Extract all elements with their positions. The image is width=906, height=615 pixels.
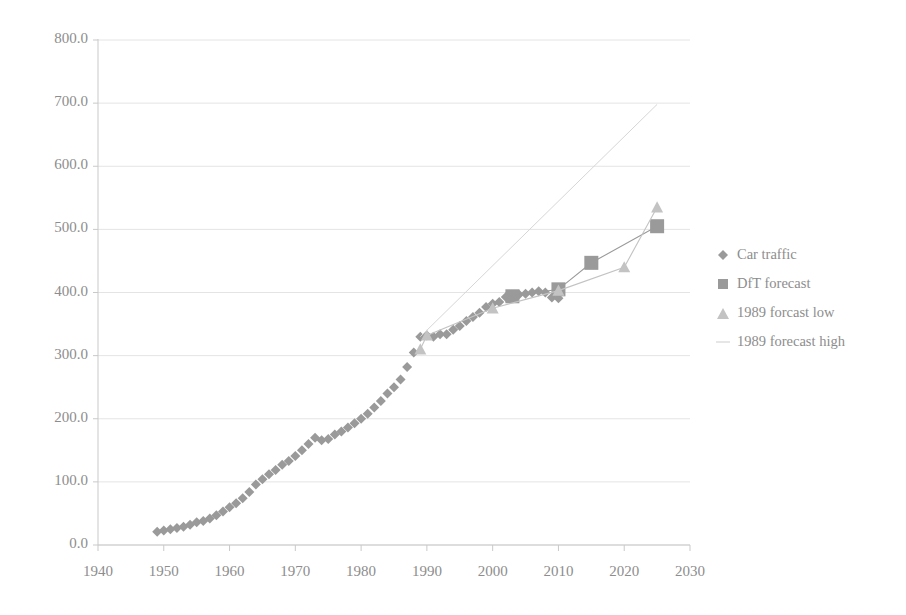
marker-diamond [376, 396, 386, 406]
gridlines [98, 40, 690, 545]
marker-triangle [717, 308, 729, 319]
y-axis-tick-label: 700.0 [8, 93, 88, 110]
data-series-layer [152, 104, 664, 536]
marker-diamond [718, 250, 728, 260]
y-axis-tick-label: 500.0 [8, 219, 88, 236]
legend-item[interactable]: DfT forecast [716, 269, 896, 298]
legend-item-label: Car traffic [737, 246, 797, 263]
legend-diamond-icon [716, 248, 730, 262]
y-axis-tick-label: 400.0 [8, 283, 88, 300]
legend-item-label: 1989 forecast high [737, 333, 845, 350]
y-axis-tick-label: 0.0 [8, 535, 88, 552]
legend-item-label: 1989 forcast low [737, 304, 834, 321]
marker-diamond [303, 439, 313, 449]
marker-diamond [297, 445, 307, 455]
series-1989-forecast-high [420, 104, 657, 336]
series-car-traffic [152, 286, 563, 537]
y-axis-tick-label: 600.0 [8, 156, 88, 173]
y-axis-tick-label: 800.0 [8, 30, 88, 47]
y-axis-tick-label: 200.0 [8, 409, 88, 426]
marker-triangle [618, 261, 630, 272]
legend-item-label: DfT forecast [737, 275, 810, 292]
y-axis-tick-label: 300.0 [8, 346, 88, 363]
y-axis-tick-label: 100.0 [8, 472, 88, 489]
marker-diamond [396, 375, 406, 385]
marker-square [584, 256, 598, 270]
marker-diamond [389, 382, 399, 392]
marker-diamond [402, 362, 412, 372]
x-axis-tick-label: 2030 [650, 563, 730, 580]
legend-line-icon [716, 335, 730, 349]
marker-triangle [414, 343, 426, 354]
legend-triangle-icon [716, 306, 730, 320]
chart-legend: Car trafficDfT forecast1989 forcast low1… [716, 240, 896, 356]
marker-square [718, 279, 728, 289]
legend-item[interactable]: 1989 forcast low [716, 298, 896, 327]
marker-triangle [651, 201, 663, 212]
marker-diamond [244, 487, 254, 497]
chart-container: 0.0100.0200.0300.0400.0500.0600.0700.080… [0, 0, 906, 615]
series-line [420, 104, 657, 336]
marker-diamond [382, 389, 392, 399]
legend-item[interactable]: Car traffic [716, 240, 896, 269]
legend-item[interactable]: 1989 forecast high [716, 327, 896, 356]
legend-square-icon [716, 277, 730, 291]
marker-diamond [369, 402, 379, 412]
x-tick-marks [98, 545, 690, 551]
marker-square [650, 219, 664, 233]
